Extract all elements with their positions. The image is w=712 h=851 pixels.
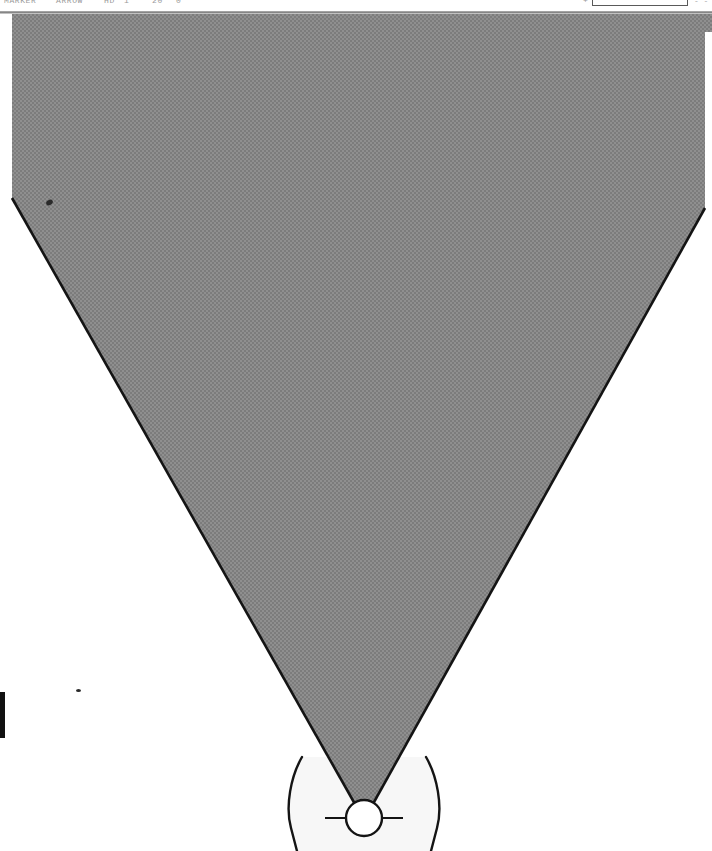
hub-circle [346, 800, 382, 836]
triangle-head [12, 14, 712, 820]
header-label-arrow: ARROW [56, 0, 83, 5]
header-band: MARKER ARROW HD 1 20 0 + - - [0, 0, 712, 11]
header-label-index: 1 [124, 0, 129, 5]
header-field-box[interactable] [592, 0, 688, 6]
figure-container [0, 14, 712, 851]
figure-drawing [0, 14, 712, 851]
scanned-page: MARKER ARROW HD 1 20 0 + - - [0, 0, 712, 851]
header-plus-icon: + [583, 0, 588, 5]
header-dash-icon: - - [694, 0, 708, 5]
header-label-hd: HD [104, 0, 115, 5]
header-label-zero: 0 [176, 0, 181, 5]
header-label-size: 20 [152, 0, 163, 5]
header-label-marker: MARKER [4, 0, 36, 5]
left-margin-bar [0, 692, 5, 738]
scan-speck-lower [76, 689, 81, 692]
